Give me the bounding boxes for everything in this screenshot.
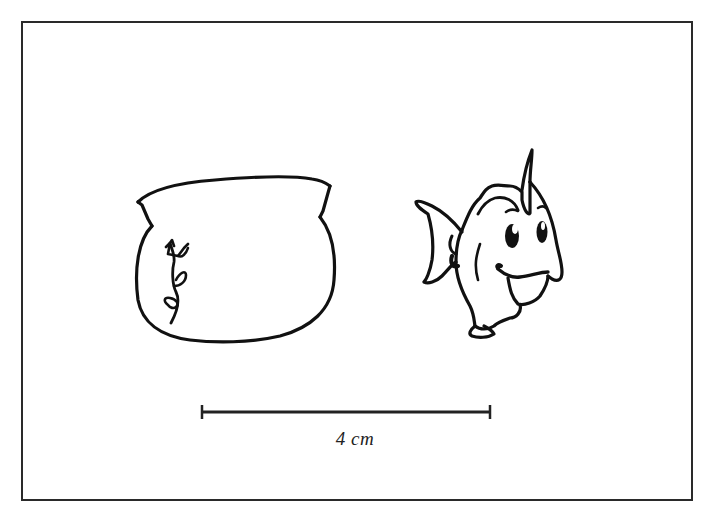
scale-bar-label: 4 cm (300, 428, 410, 450)
scale-bar (201, 405, 491, 419)
fish-icon (416, 150, 562, 337)
fishbowl-icon (137, 177, 335, 342)
